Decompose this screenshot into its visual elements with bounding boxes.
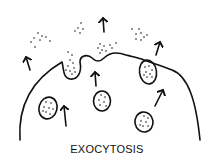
release-pocket-center-contents [97,42,117,54]
arrow-outer-center [103,18,104,32]
vesicle-right-contents [139,115,149,127]
secreted-particles-right [131,28,148,41]
arrow-inner-center [95,72,96,86]
arrow-outer-left [26,57,30,70]
vesicle-fusing [138,59,158,85]
vesicle-center [94,91,111,111]
vesicle-left-contents [42,101,54,115]
secreted-particles-left [30,32,51,48]
secreted-particles-center [74,22,84,34]
vesicle-fusing-contents [143,65,153,78]
vesicle-center-contents [98,94,107,107]
exocytosis-diagram [0,0,214,160]
vesicle-left [36,95,59,121]
arrow-outer-right [156,42,160,55]
vesicle-right [133,111,154,134]
release-pocket-left-contents [65,51,76,75]
diagram-title: EXOCYTOSIS [0,143,214,155]
arrow-inner-right [155,90,163,106]
arrow-inner-left [64,106,66,126]
